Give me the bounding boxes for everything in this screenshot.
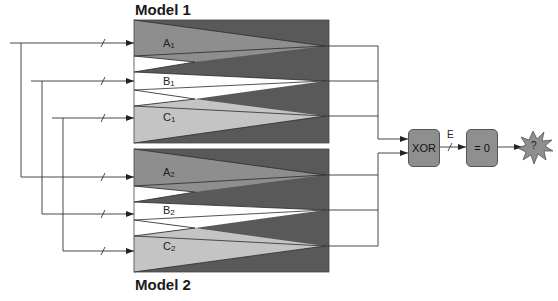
model-1-title: Model 1: [135, 1, 191, 18]
zero-compare-box: = 0: [466, 129, 498, 167]
model-1-channel-c-label: C1: [163, 111, 175, 123]
result-label: ?: [531, 140, 537, 151]
model-2-channel-a-label: A2: [163, 166, 175, 178]
model-2-channel-c-label: C2: [163, 240, 175, 252]
xor-gate: XOR: [408, 129, 440, 167]
zero-compare-label: = 0: [474, 142, 490, 154]
xor-label: XOR: [412, 142, 436, 154]
input-wiring: [10, 39, 134, 255]
model-1-channel-b-label: B1: [163, 75, 175, 87]
model-2-title: Model 2: [135, 276, 191, 293]
model-2-channel-b-label: B2: [163, 204, 175, 216]
error-bus-label: E: [447, 129, 454, 140]
model-1-channel-a-label: A1: [163, 37, 175, 49]
